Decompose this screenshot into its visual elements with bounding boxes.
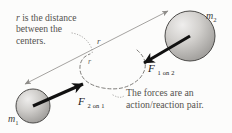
label-mass-two: m2	[206, 10, 217, 23]
annotation-distance-line1: r is the distance	[16, 12, 76, 23]
label-force-2-on-1-subscript: 2 on 1	[87, 102, 104, 109]
annotation-distance-line1-rest: is the distance	[20, 12, 77, 23]
label-mass-one: m1	[8, 113, 19, 126]
annotation-distance-line2: between the	[16, 23, 76, 34]
vector-hat-icon	[78, 95, 232, 133]
label-mass-one-sub: 1	[15, 119, 18, 126]
dashed-arc-action-reaction	[80, 50, 145, 89]
label-force-2-on-1: F 2 on 1	[78, 95, 105, 107]
annotation-distance-note: r is the distance between the centers.	[16, 12, 76, 46]
gravitation-force-diagram: r is the distance between the centers. T…	[0, 0, 232, 133]
label-force-1-on-2-subscript: 1 on 2	[157, 69, 174, 76]
label-arc-r: r	[88, 57, 91, 66]
label-force-1-on-2: F 1 on 2	[148, 62, 175, 74]
annotation-distance-line3: centers.	[16, 35, 76, 46]
label-mass-two-sub: 2	[213, 16, 216, 23]
label-distance-r: r	[97, 36, 101, 46]
